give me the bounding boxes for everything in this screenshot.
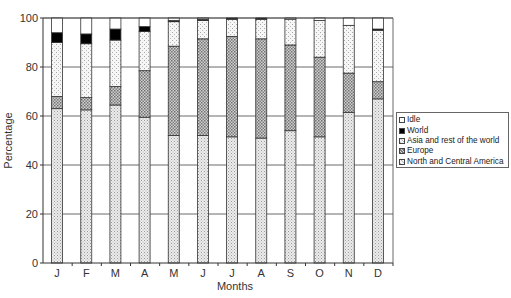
y-tick-label: 80 — [26, 61, 38, 73]
y-tick-label: 60 — [26, 110, 38, 122]
bar-segment-world — [110, 29, 121, 40]
bar-segment-north-and-central-america — [81, 110, 92, 263]
legend-label: Europe — [407, 146, 433, 156]
bar-6 — [197, 18, 208, 263]
legend-item: North and Central America — [399, 157, 508, 167]
bar-segment-asia-and-rest-of-the-world — [343, 25, 354, 73]
legend-item: Asia and rest of the world — [399, 136, 508, 146]
bar-segment-north-and-central-america — [256, 138, 267, 263]
legend-swatch-icon — [399, 128, 405, 134]
bar-segment-asia-and-rest-of-the-world — [139, 31, 150, 70]
legend-label: Idle — [407, 115, 420, 125]
bar-segment-europe — [256, 39, 267, 138]
bar-segment-asia-and-rest-of-the-world — [285, 19, 296, 45]
chart-legend: IdleWorldAsia and rest of the worldEurop… — [396, 112, 509, 168]
bar-segment-asia-and-rest-of-the-world — [372, 30, 383, 81]
legend-swatch-icon — [399, 159, 405, 165]
bar-segment-north-and-central-america — [227, 137, 238, 263]
legend-item: Idle — [399, 115, 508, 125]
x-tick-label: M — [111, 267, 120, 279]
bar-segment-asia-and-rest-of-the-world — [197, 20, 208, 38]
bar-segment-europe — [52, 96, 63, 108]
bar-segment-europe — [227, 36, 238, 136]
legend-item: Europe — [399, 146, 508, 156]
x-tick-label: A — [258, 267, 266, 279]
bar-12 — [372, 18, 383, 263]
bar-segment-asia-and-rest-of-the-world — [110, 40, 121, 87]
bar-segment-europe — [81, 98, 92, 110]
bar-segment-north-and-central-america — [372, 99, 383, 263]
bar-7 — [227, 18, 238, 263]
bar-11 — [343, 18, 354, 263]
bar-segment-north-and-central-america — [285, 131, 296, 263]
bar-10 — [314, 18, 325, 263]
bar-segment-north-and-central-america — [110, 105, 121, 263]
x-tick-label: N — [345, 267, 353, 279]
legend-swatch-icon — [399, 148, 405, 154]
gridlines — [43, 18, 393, 214]
x-tick-label: J — [54, 267, 60, 279]
bar-segment-asia-and-rest-of-the-world — [52, 43, 63, 97]
legend-label: North and Central America — [407, 157, 503, 167]
y-tick-label: 40 — [26, 159, 38, 171]
bar-segment-north-and-central-america — [52, 109, 63, 263]
bar-segment-idle — [139, 18, 150, 27]
bar-segment-north-and-central-america — [168, 136, 179, 263]
bar-segment-asia-and-rest-of-the-world — [168, 22, 179, 47]
x-tick-label: J — [200, 267, 206, 279]
y-tick-label: 0 — [32, 257, 38, 269]
bar-segment-north-and-central-america — [139, 117, 150, 263]
bar-segment-europe — [343, 73, 354, 112]
bar-segment-idle — [81, 18, 92, 34]
legend-swatch-icon — [399, 117, 405, 123]
legend-label: Asia and rest of the world — [407, 136, 499, 146]
bar-5 — [168, 18, 179, 263]
bar-segment-world — [139, 27, 150, 32]
bar-segment-europe — [285, 45, 296, 131]
bar-segment-europe — [314, 57, 325, 137]
bar-2 — [81, 18, 92, 263]
x-tick-label: M — [169, 267, 178, 279]
bar-segment-idle — [372, 18, 383, 29]
y-axis-title: Percentage — [2, 112, 14, 168]
x-tick-label: F — [83, 267, 90, 279]
x-tick-label: D — [374, 267, 382, 279]
legend-label: World — [407, 126, 428, 136]
bar-segment-europe — [110, 87, 121, 105]
bar-segment-asia-and-rest-of-the-world — [314, 20, 325, 57]
bar-segment-world — [81, 34, 92, 44]
legend-item: World — [399, 125, 508, 135]
bar-segment-idle — [343, 18, 354, 25]
y-tick-label: 20 — [26, 208, 38, 220]
bar-3 — [110, 18, 121, 263]
bar-segment-north-and-central-america — [343, 112, 354, 263]
bar-segment-asia-and-rest-of-the-world — [256, 19, 267, 39]
bar-segment-north-and-central-america — [314, 137, 325, 263]
bar-segment-europe — [139, 71, 150, 118]
bar-segment-europe — [168, 46, 179, 135]
bar-4 — [139, 18, 150, 263]
x-tick-label: O — [315, 267, 324, 279]
bar-segment-europe — [197, 39, 208, 136]
bar-segment-europe — [372, 82, 383, 99]
bar-segment-asia-and-rest-of-the-world — [81, 44, 92, 98]
bar-1 — [52, 18, 63, 263]
bar-segment-north-and-central-america — [197, 136, 208, 263]
bar-8 — [256, 18, 267, 263]
x-axis-title: Months — [217, 280, 254, 292]
bar-segment-asia-and-rest-of-the-world — [227, 19, 238, 36]
bar-segment-world — [52, 33, 63, 43]
legend-swatch-icon — [399, 138, 405, 144]
x-tick-label: S — [287, 267, 294, 279]
x-tick-label: J — [229, 267, 235, 279]
bar-segment-idle — [110, 18, 121, 29]
y-tick-label: 100 — [20, 12, 38, 24]
x-tick-label: A — [141, 267, 149, 279]
bars — [52, 18, 384, 263]
bar-segment-idle — [52, 18, 63, 33]
bar-9 — [285, 18, 296, 263]
